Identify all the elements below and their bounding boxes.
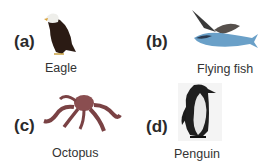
item-name: Octopus	[52, 146, 99, 160]
item-name: Eagle	[45, 61, 77, 75]
octopus-icon	[42, 93, 122, 135]
item-name: Flying fish	[197, 62, 253, 76]
eagle-icon	[40, 10, 80, 58]
item-letter: (b)	[146, 32, 168, 52]
item-letter: (c)	[14, 116, 35, 136]
item-letter: (a)	[14, 32, 35, 52]
item-name: Penguin	[174, 147, 220, 161]
penguin-icon	[178, 83, 222, 141]
item-letter: (d)	[146, 117, 168, 137]
flying-fish-icon	[188, 8, 260, 52]
